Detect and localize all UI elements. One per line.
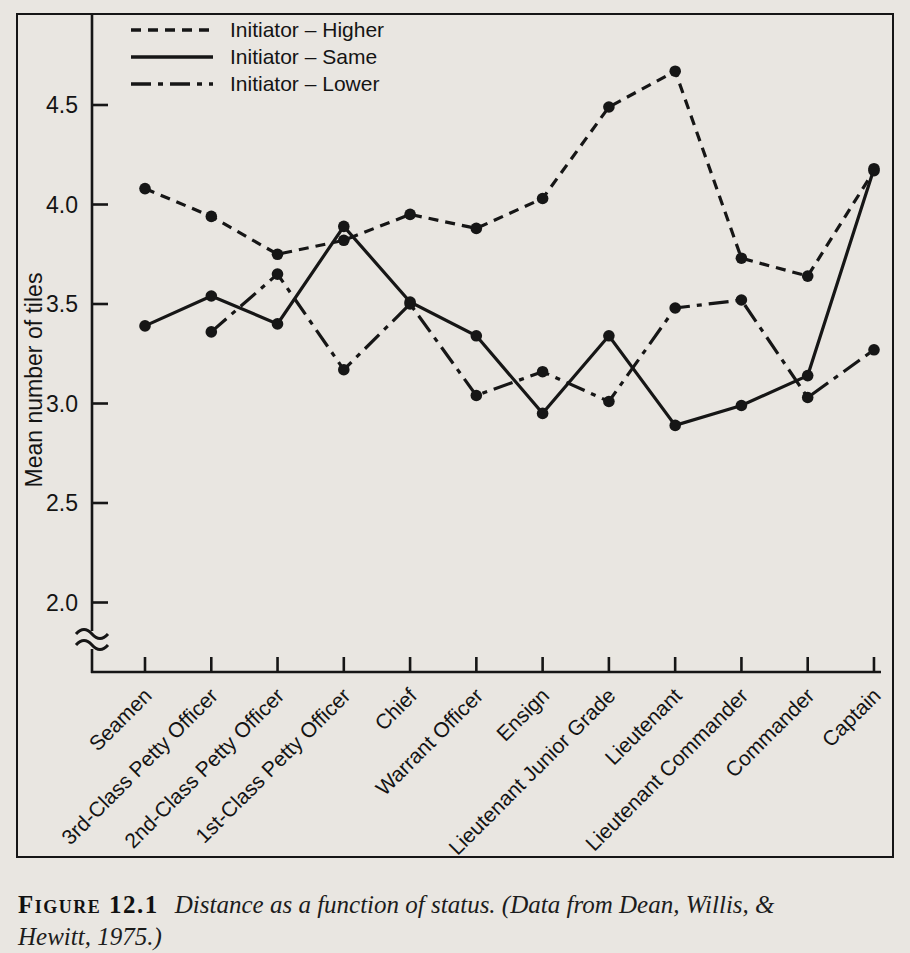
data-point-marker [802, 270, 814, 282]
figure-caption-text-line1: Distance as a function of status. (Data … [175, 891, 775, 918]
dashdot-line-sample-icon [129, 79, 215, 89]
data-point-marker [272, 249, 284, 261]
figure-caption-text-line2: Hewitt, 1975.) [18, 923, 162, 950]
data-point-marker [471, 330, 483, 342]
data-point-marker [603, 101, 615, 113]
data-point-marker [868, 163, 880, 175]
data-point-marker [736, 294, 748, 306]
legend-item-lower: Initiator – Lower [129, 70, 384, 97]
data-point-marker [537, 366, 549, 378]
data-point-marker [603, 396, 615, 408]
series-line [145, 71, 874, 276]
data-point-marker [404, 209, 416, 221]
dashed-line-sample-icon [129, 25, 215, 35]
solid-line-sample-icon [129, 52, 215, 62]
data-point-marker [338, 221, 350, 233]
y-tick-label: 2.0 [46, 590, 78, 616]
data-point-marker [669, 65, 681, 77]
x-tick-label: Ensign [492, 684, 554, 746]
data-point-marker [736, 400, 748, 412]
figure-caption-number: Figure 12.1 [18, 891, 159, 918]
data-point-marker [868, 344, 880, 356]
chart-legend: Initiator – Higher Initiator – Same Init… [129, 16, 384, 97]
series-line [211, 274, 874, 401]
y-tick-label: 3.5 [46, 291, 78, 317]
legend-item-same: Initiator – Same [129, 43, 384, 70]
data-point-marker [802, 370, 814, 382]
data-point-marker [471, 223, 483, 235]
data-point-marker [802, 392, 814, 404]
x-tick-label: Chief [370, 683, 421, 734]
data-point-marker [537, 408, 549, 420]
legend-label-higher: Initiator – Higher [230, 18, 384, 42]
legend-item-higher: Initiator – Higher [129, 16, 384, 43]
data-point-marker [669, 302, 681, 314]
data-point-marker [272, 318, 284, 330]
y-tick-label: 3.0 [46, 391, 78, 417]
x-tick-label: Captain [817, 684, 884, 751]
legend-label-same: Initiator – Same [230, 45, 377, 69]
data-point-marker [471, 390, 483, 402]
data-point-marker [272, 268, 284, 280]
y-tick-label: 4.5 [46, 92, 78, 118]
figure-caption: Figure 12.1Distance as a function of sta… [18, 889, 888, 953]
series-line [145, 169, 874, 426]
y-axis-title: Mean number of tiles [21, 273, 47, 488]
axis-break-icon [76, 641, 108, 650]
data-point-marker [139, 320, 151, 332]
y-tick-label: 2.5 [46, 490, 78, 516]
data-point-marker [736, 252, 748, 264]
data-point-marker [338, 235, 350, 247]
data-point-marker [404, 298, 416, 310]
data-point-marker [139, 183, 151, 195]
data-point-marker [206, 290, 218, 302]
data-point-marker [537, 193, 549, 205]
legend-label-lower: Initiator – Lower [230, 72, 379, 96]
data-point-marker [338, 364, 350, 376]
y-tick-label: 4.0 [46, 192, 78, 218]
data-point-marker [206, 326, 218, 338]
data-point-marker [206, 211, 218, 223]
data-point-marker [603, 330, 615, 342]
data-point-marker [669, 420, 681, 432]
